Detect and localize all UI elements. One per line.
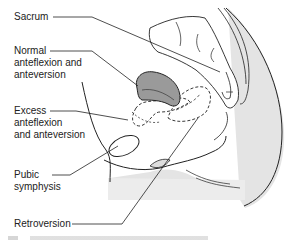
label-retroversion: Retroversion — [14, 218, 71, 230]
clipped-caption — [8, 236, 208, 240]
rectum — [214, 112, 228, 140]
leader-retroversion — [72, 118, 198, 224]
label-pubic-symphysis: Pubic symphysis — [14, 169, 61, 193]
label-normal-anteflexion: Normal anteflexion and anteversion — [14, 45, 82, 81]
bladder — [132, 112, 160, 123]
leader-pubic — [52, 146, 118, 175]
abdominal-wall — [82, 82, 110, 182]
label-excess-anteflexion: Excess anteflexion and anteversion — [14, 105, 85, 141]
label-sacrum: Sacrum — [14, 11, 48, 23]
pubic-symphysis — [106, 131, 143, 161]
uterus-normal — [136, 72, 180, 106]
